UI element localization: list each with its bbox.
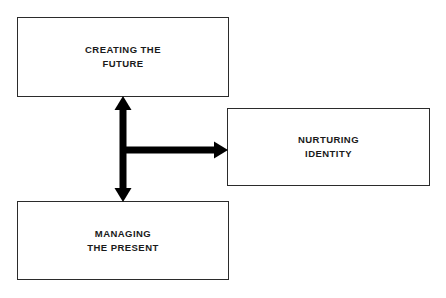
diagram-canvas: CREATING THE FUTURE MANAGING THE PRESENT… <box>0 0 446 298</box>
vertical-double-arrow-icon <box>115 96 132 202</box>
node-label-managing-the-present: MANAGING THE PRESENT <box>87 227 158 255</box>
node-nurturing-identity[interactable]: NURTURING IDENTITY <box>227 108 430 186</box>
node-managing-the-present[interactable]: MANAGING THE PRESENT <box>17 201 229 280</box>
node-creating-the-future[interactable]: CREATING THE FUTURE <box>17 17 229 97</box>
node-label-creating-the-future: CREATING THE FUTURE <box>85 43 161 71</box>
horizontal-right-arrow-icon <box>120 142 228 159</box>
node-label-nurturing-identity: NURTURING IDENTITY <box>298 133 359 161</box>
